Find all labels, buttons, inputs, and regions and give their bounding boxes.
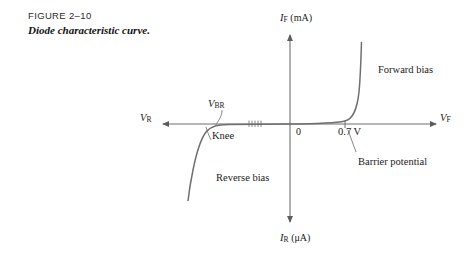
knee-label: Knee xyxy=(212,130,234,141)
vbr-subscript: BR xyxy=(214,101,224,110)
forward-bias-label: Forward bias xyxy=(378,64,433,75)
if-subscript: F xyxy=(284,15,288,24)
x-axis-reverse-voltage-label: VR xyxy=(140,112,151,124)
y-axis-reverse-current-label: IR (μA) xyxy=(280,232,310,244)
origin-label: 0 xyxy=(296,126,301,137)
diode-iv-plot xyxy=(0,0,476,259)
reverse-bias-label: Reverse bias xyxy=(216,172,269,183)
barrier-voltage-label: 0.7 V xyxy=(338,126,361,137)
if-unit: (mA) xyxy=(290,12,312,23)
figure-container: FIGURE 2–10 Diode characteristic curve. xyxy=(0,0,476,259)
reverse-bias-curve xyxy=(188,124,290,201)
barrier-potential-label: Barrier potential xyxy=(358,156,427,167)
vf-subscript: F xyxy=(446,115,450,124)
forward-bias-curve xyxy=(290,42,362,124)
y-axis-forward-current-label: IF (mA) xyxy=(280,12,312,24)
vr-subscript: R xyxy=(146,115,151,124)
ir-unit: (μA) xyxy=(291,232,310,243)
breakdown-voltage-label: VBR xyxy=(208,98,224,110)
x-axis-forward-voltage-label: VF xyxy=(440,112,451,124)
ir-subscript: R xyxy=(284,235,289,244)
